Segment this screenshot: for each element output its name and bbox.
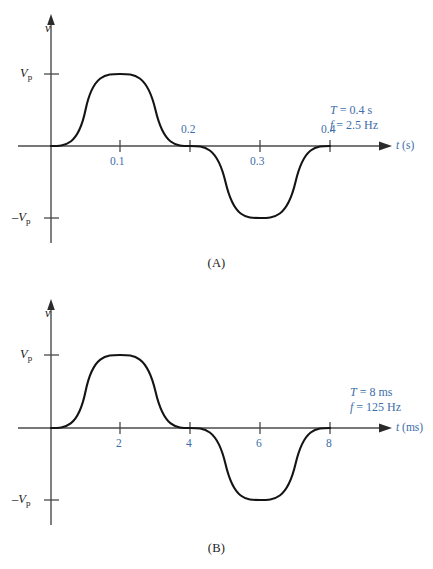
x-tick-label-6-b: 6 (256, 438, 262, 450)
y-tick-label-neg-vp-a: –Vp (12, 211, 30, 226)
x-axis-unit-a: (s) (402, 139, 414, 151)
annotation-frequency-a: f = 2.5 Hz (330, 118, 378, 133)
y-axis-label-a: v (45, 22, 51, 35)
neg-vp-subscript-a: p (26, 216, 31, 226)
x-tick-label-0-2-a: 0.2 (181, 124, 195, 136)
vp-subscript-b: p (28, 353, 33, 363)
x-axis-unit-b: (ms) (402, 421, 423, 433)
x-tick-label-4-b: 4 (186, 438, 192, 450)
x-tick-label-2-b: 2 (116, 438, 122, 450)
x-tick-label-0-3-a: 0.3 (250, 156, 264, 168)
caption-b: (B) (0, 541, 433, 556)
x-tick-label-8-b: 8 (326, 438, 332, 450)
x-axis-label-b: t (ms) (396, 422, 423, 434)
period-symbol-b: T (350, 385, 357, 399)
period-value-a: = 0.4 s (337, 103, 372, 117)
x-axis-arrow-a (379, 142, 392, 151)
neg-vp-subscript-b: p (26, 498, 31, 508)
figure-panel-a: v Vp –Vp 0.1 0.2 0.3 0.4 t (s) T = 0.4 s… (0, 0, 433, 284)
annotation-period-b: T = 8 ms (350, 385, 392, 400)
frequency-value-a: = 2.5 Hz (333, 118, 378, 132)
frequency-value-b: = 125 Hz (353, 400, 401, 414)
annotation-period-a: T = 0.4 s (330, 103, 372, 118)
vp-symbol-b: V (20, 347, 28, 361)
y-tick-label-vp-b: Vp (20, 348, 32, 363)
caption-a: (A) (0, 256, 433, 271)
x-tick-label-0-1-a: 0.1 (110, 156, 124, 168)
y-axis-label-b: v (45, 307, 51, 320)
y-tick-label-neg-vp-b: –Vp (12, 493, 30, 508)
neg-vp-symbol-b: –V (12, 492, 26, 506)
x-axis-arrow-b (379, 424, 392, 433)
x-axis-symbol-a: t (396, 139, 399, 151)
neg-vp-symbol-a: –V (12, 210, 26, 224)
x-axis-label-a: t (s) (396, 140, 414, 152)
period-symbol-a: T (330, 103, 337, 117)
vp-symbol-a: V (20, 66, 28, 80)
y-tick-label-vp-a: Vp (20, 67, 32, 82)
figure-panel-b: v Vp –Vp 2 4 6 8 t (ms) T = 8 ms f = 125… (0, 285, 433, 569)
vp-subscript-a: p (28, 72, 33, 82)
x-axis-symbol-b: t (396, 421, 399, 433)
annotation-frequency-b: f = 125 Hz (350, 400, 401, 415)
period-value-b: = 8 ms (357, 385, 393, 399)
